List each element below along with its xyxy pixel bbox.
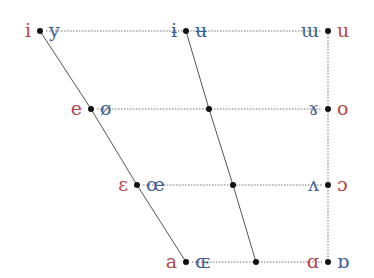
vowel-symbol: ɔ (337, 173, 348, 195)
vowel-dot (37, 28, 43, 34)
vowel-dot (325, 182, 331, 188)
vowel-symbol: ɑ (307, 250, 319, 272)
vowel-symbol: ɛ (118, 173, 128, 195)
backness-line (186, 31, 209, 109)
vowel-symbol: ɶ (195, 250, 210, 272)
vowel-chart: iyɨʉɯueøɤoɛœʌɔaɶɑɒ (0, 0, 374, 278)
vowel-symbol: o (337, 97, 348, 119)
vowel-symbol: y (48, 19, 60, 41)
vowel-symbol: ɤ (308, 97, 319, 119)
vowel-symbol: ɯ (301, 19, 319, 41)
vowel-dot (183, 28, 189, 34)
vowel-dot (325, 259, 331, 265)
vowel-chart-svg: iyɨʉɯueøɤoɛœʌɔaɶɑɒ (0, 0, 374, 278)
vowel-symbol: ø (100, 97, 111, 119)
vowel-symbol: a (166, 250, 177, 272)
vowel-dot (88, 106, 94, 112)
vowel-symbol: ʌ (307, 173, 319, 195)
vowel-dot (253, 259, 259, 265)
backness-line (40, 31, 91, 109)
vowel-dot (325, 106, 331, 112)
vowel-symbol: ʉ (195, 19, 207, 41)
vowel-symbol: ɒ (337, 250, 349, 272)
vowel-symbol: ɨ (171, 19, 177, 41)
vowel-symbol: u (337, 19, 349, 41)
vowel-symbol: œ (146, 173, 165, 195)
vowel-dot (206, 106, 212, 112)
backness-line (137, 185, 186, 262)
vowel-dot (183, 259, 189, 265)
vowel-dot (325, 28, 331, 34)
vowel-dot (230, 182, 236, 188)
backness-line (209, 109, 233, 185)
vowel-symbol: i (25, 19, 31, 41)
backness-line (91, 109, 137, 185)
vowel-dot (134, 182, 140, 188)
backness-line (233, 185, 256, 262)
vowel-symbol: e (71, 97, 82, 119)
